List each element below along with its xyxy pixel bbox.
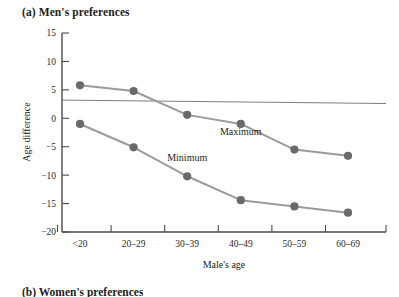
x-axis: <2020–2930–3940–4950–5960–69 Male's age bbox=[57, 225, 386, 270]
x-axis-ticks bbox=[57, 225, 386, 232]
data-point-maximum-0[interactable] bbox=[76, 81, 84, 89]
line-chart: 151050−5−10−15−20 Age difference <2020–2… bbox=[0, 0, 399, 297]
data-point-minimum-2[interactable] bbox=[183, 172, 191, 180]
x-axis-title: Male's age bbox=[203, 259, 246, 270]
y-axis-tick-label: −15 bbox=[41, 199, 56, 209]
x-axis-tick-label: 50–59 bbox=[283, 239, 307, 249]
figure-panel-a: (a) Men's preferences 151050−5−10−15−20 … bbox=[0, 0, 399, 297]
data-point-minimum-4[interactable] bbox=[290, 202, 298, 210]
y-axis-ticks bbox=[62, 33, 69, 232]
y-axis-tick-label: −5 bbox=[46, 142, 56, 152]
reference-line-segment bbox=[62, 100, 386, 103]
reference-line bbox=[62, 100, 386, 103]
y-axis-tick-label: 10 bbox=[47, 57, 57, 67]
x-axis-tick-label: 20–29 bbox=[122, 239, 146, 249]
series-line-maximum bbox=[80, 85, 348, 156]
page-title: (a) Men's preferences bbox=[22, 6, 130, 18]
x-axis-tick-label: 60–69 bbox=[336, 239, 360, 249]
y-axis-tick-label: 15 bbox=[47, 28, 57, 38]
y-axis-title: Age difference bbox=[21, 102, 32, 162]
y-axis-tick-label: 5 bbox=[51, 85, 56, 95]
x-axis-tick-label: <20 bbox=[73, 239, 88, 249]
y-axis: 151050−5−10−15−20 Age difference bbox=[21, 28, 69, 237]
next-panel-title: (b) Women's preferences bbox=[22, 286, 143, 297]
data-point-maximum-2[interactable] bbox=[183, 111, 191, 119]
data-point-minimum-3[interactable] bbox=[237, 196, 245, 204]
y-axis-tick-label: 0 bbox=[51, 114, 56, 124]
data-point-minimum-5[interactable] bbox=[344, 209, 352, 217]
y-axis-tick-labels: 151050−5−10−15−20 bbox=[41, 28, 56, 237]
x-axis-tick-label: 30–39 bbox=[175, 239, 199, 249]
data-point-maximum-4[interactable] bbox=[290, 145, 298, 153]
x-axis-tick-labels: <2020–2930–3940–4950–5960–69 bbox=[73, 239, 361, 249]
data-point-maximum-1[interactable] bbox=[130, 87, 138, 95]
y-axis-tick-label: −10 bbox=[41, 171, 56, 181]
series-line-minimum bbox=[80, 124, 348, 213]
x-axis-tick-label: 40–49 bbox=[229, 239, 253, 249]
data-point-minimum-0[interactable] bbox=[76, 120, 84, 128]
series-lines bbox=[80, 85, 348, 212]
series-annotation-minimum: Minimum bbox=[167, 152, 207, 163]
y-axis-tick-label: −20 bbox=[41, 227, 56, 237]
series-annotations: MaximumMinimum bbox=[167, 126, 262, 163]
series-annotation-maximum: Maximum bbox=[220, 126, 262, 137]
data-point-maximum-5[interactable] bbox=[344, 152, 352, 160]
data-point-minimum-1[interactable] bbox=[130, 143, 138, 151]
